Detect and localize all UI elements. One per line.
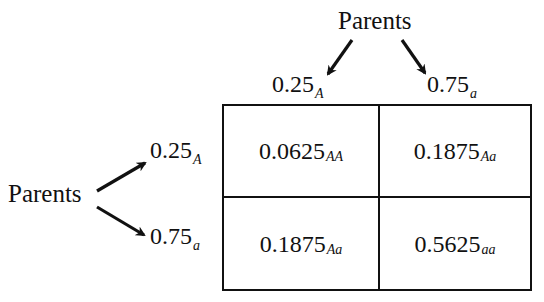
cell-frequency: 0.0625 [259, 139, 325, 163]
allele-frequency: 0.25 [272, 71, 314, 97]
left-allele-a: 0.75a [150, 224, 200, 248]
cell-Aa-bottom: 0.1875Aa [224, 198, 378, 289]
cell-genotype: AA [326, 150, 343, 164]
allele-frequency: 0.75 [427, 71, 469, 97]
allele-symbol: A [315, 86, 324, 101]
arrow-left-down-icon [97, 207, 144, 235]
cell-frequency: 0.1875 [260, 232, 326, 256]
cell-genotype: Aa [327, 243, 343, 257]
top-allele-a: 0.75a [427, 72, 477, 96]
cell-genotype: Aa [481, 150, 497, 164]
cell-aa: 0.5625aa [380, 198, 530, 289]
allele-frequency: 0.25 [150, 137, 192, 163]
top-allele-A: 0.25A [272, 72, 324, 96]
cell-genotype: aa [482, 243, 496, 257]
allele-frequency: 0.75 [150, 223, 192, 249]
allele-symbol: a [193, 238, 200, 253]
cell-frequency: 0.1875 [414, 139, 480, 163]
arrow-left-up-icon [97, 163, 145, 191]
cell-frequency: 0.5625 [415, 232, 481, 256]
arrow-top-right-icon [402, 40, 425, 73]
left-parents-label: Parents [8, 181, 82, 206]
allele-symbol: a [470, 86, 477, 101]
arrow-top-left-icon [328, 40, 352, 74]
cell-AA: 0.0625AA [224, 106, 378, 196]
allele-symbol: A [193, 152, 202, 167]
left-allele-A: 0.25A [150, 138, 202, 162]
cell-Aa-top: 0.1875Aa [380, 106, 530, 196]
top-parents-label: Parents [338, 8, 412, 33]
punnett-square: 0.0625AA 0.1875Aa 0.1875Aa 0.5625aa [222, 104, 532, 291]
